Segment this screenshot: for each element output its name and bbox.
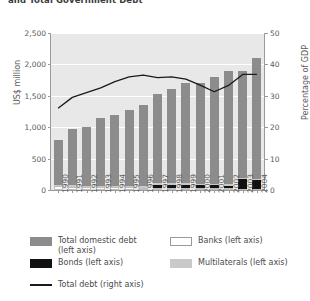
x-axis-tickmark: [115, 190, 116, 193]
x-axis-tickmark: [87, 190, 88, 193]
y-axis-left-tick-label: 0: [2, 186, 46, 195]
x-axis-tickmark: [200, 190, 201, 193]
legend-label-total-domestic-debt: Total domestic debt (left axis): [58, 236, 137, 256]
x-axis-tick-label: 2002: [232, 174, 241, 193]
x-axis-tickmark: [229, 190, 230, 193]
y-axis-right-tick-label: 50: [270, 29, 310, 38]
x-axis-tickmark: [257, 190, 258, 193]
x-axis-tick-label: 1990: [61, 174, 70, 193]
y-axis-right-tickmark: [265, 64, 268, 65]
chart-legend: Total domestic debt (left axis) Banks (l…: [30, 236, 300, 298]
y-axis-right-label: Percentage of GDP: [301, 41, 310, 125]
chart-container: and Total Government Debt 05001,0001,500…: [0, 0, 310, 301]
x-axis-tickmark: [143, 190, 144, 193]
x-axis-tick-label: 1998: [175, 174, 184, 193]
legend-swatch-total-domestic-debt: [30, 237, 52, 246]
x-axis-tickmark: [101, 190, 102, 193]
x-axis-tick-label: 1991: [75, 174, 84, 193]
x-axis-tick-label: 2001: [217, 174, 226, 193]
x-axis-tickmark: [172, 190, 173, 193]
y-axis-left-tick-label: 2,000: [2, 60, 46, 69]
y-axis-right-tickmark: [265, 127, 268, 128]
legend-swatch-total-debt: [30, 280, 52, 289]
x-axis-tickmark: [129, 190, 130, 193]
legend-label-multilaterals: Multilaterals (left axis): [198, 258, 288, 268]
x-axis-tick-label: 2003: [246, 174, 255, 193]
legend-item-banks: Banks (left axis): [170, 236, 263, 246]
y-axis-left-tick-label: 2,500: [2, 29, 46, 38]
y-axis-left-tick-label: 500: [2, 154, 46, 163]
x-axis-tickmark: [72, 190, 73, 193]
legend-item-bonds: Bonds (left axis): [30, 258, 123, 268]
x-axis-tick-label: 1993: [104, 174, 113, 193]
y-axis-left-tickmark: [48, 190, 51, 191]
legend-swatch-multilaterals: [170, 259, 192, 268]
y-axis-left-label: US$ million: [13, 48, 22, 118]
total-debt-line-series: [51, 33, 264, 190]
legend-item-multilaterals: Multilaterals (left axis): [170, 258, 288, 268]
legend-swatch-banks: [170, 237, 192, 246]
y-axis-right-tick-label: 0: [270, 186, 310, 195]
chart-title: and Total Government Debt: [8, 0, 308, 5]
legend-label-total-debt: Total debt (right axis): [58, 280, 144, 290]
y-axis-right-tickmark: [265, 33, 268, 34]
legend-item-total-debt: Total debt (right axis): [30, 280, 144, 290]
y-axis-left-tick-label: 1,500: [2, 91, 46, 100]
x-axis-tickmark: [58, 190, 59, 193]
y-axis-right-tick-label: 10: [270, 154, 310, 163]
y-axis-right-tickmark: [265, 159, 268, 160]
x-axis-tick-label: 1997: [161, 174, 170, 193]
y-axis-right-tickmark: [265, 96, 268, 97]
x-axis-tickmark: [158, 190, 159, 193]
y-axis-left-tick-label: 1,000: [2, 123, 46, 132]
x-axis-tick-label: 1992: [90, 174, 99, 193]
legend-label-banks: Banks (left axis): [198, 236, 263, 246]
x-axis-tick-label: 1996: [146, 174, 155, 193]
x-axis-tick-label: 1995: [132, 174, 141, 193]
x-axis-tickmark: [186, 190, 187, 193]
x-axis-tickmark: [243, 190, 244, 193]
x-axis-tick-label: 1999: [189, 174, 198, 193]
total-debt-line: [58, 74, 257, 108]
legend-label-bonds: Bonds (left axis): [58, 258, 123, 268]
x-axis-tick-label: 1994: [118, 174, 127, 193]
y-axis-right-spine: [264, 33, 265, 191]
x-axis-tick-label: 2004: [260, 174, 269, 193]
x-axis-tickmark: [214, 190, 215, 193]
x-axis-tick-label: 2000: [203, 174, 212, 193]
legend-item-total-domestic-debt: Total domestic debt (left axis): [30, 236, 137, 256]
legend-swatch-bonds: [30, 259, 52, 268]
